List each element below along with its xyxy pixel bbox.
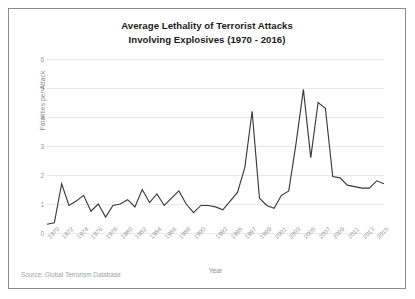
x-axis-tick-labels: 1970197219741976197819801982198419861988…: [47, 235, 384, 269]
plot-wrapper: 0123456 Fatalities per Attack 1970197219…: [9, 9, 407, 290]
y-axis-title: Fatalities per Attack: [39, 46, 46, 156]
data-series-line: [47, 89, 384, 224]
y-tick-label: 2: [24, 172, 44, 179]
y-tick-label: 0: [24, 230, 44, 237]
y-tick-label: 1: [24, 201, 44, 208]
data-line-svg: [47, 59, 384, 233]
source-note: Source: Global Terrorism Database: [21, 271, 121, 278]
plot-area: [47, 59, 384, 233]
figure-frame: Average Lethality of Terrorist Attacks I…: [8, 8, 406, 289]
